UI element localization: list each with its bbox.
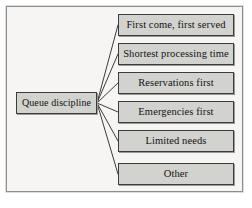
node-label: Reservations first: [138, 78, 214, 89]
node-label: Emergencies first: [138, 107, 213, 118]
node-queue-discipline[interactable]: Queue discipline: [16, 92, 97, 114]
node-reservations-first[interactable]: Reservations first: [118, 72, 234, 94]
node-emergencies-first[interactable]: Emergencies first: [118, 101, 234, 123]
node-limited-needs[interactable]: Limited needs: [118, 130, 234, 152]
node-label: First come, first served: [126, 20, 225, 31]
diagram-canvas: Queue discipline First come, first serve…: [0, 0, 252, 208]
node-shortest-processing-time[interactable]: Shortest processing time: [118, 43, 234, 65]
node-other[interactable]: Other: [118, 163, 234, 185]
node-label: Queue discipline: [22, 98, 91, 108]
node-label: Other: [164, 169, 188, 180]
node-label: Limited needs: [145, 136, 206, 147]
node-first-come-first-served[interactable]: First come, first served: [118, 14, 234, 36]
node-label: Shortest processing time: [123, 49, 229, 60]
